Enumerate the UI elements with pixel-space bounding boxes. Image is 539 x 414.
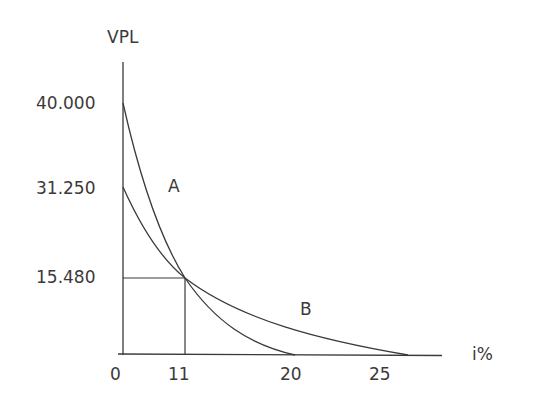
x-tick-11: 11	[168, 366, 190, 383]
curve-a-label: A	[168, 178, 180, 195]
curve-a	[123, 103, 295, 355]
y-tick-15480: 15.480	[36, 269, 95, 286]
curve-b	[123, 187, 408, 355]
x-axis-label: i%	[472, 346, 493, 363]
y-axis-label: VPL	[107, 29, 138, 46]
y-tick-40000: 40.000	[36, 95, 95, 112]
y-tick-31250: 31.250	[36, 180, 95, 197]
x-axis	[118, 354, 442, 356]
curve-b-label: B	[300, 301, 312, 318]
x-tick-0: 0	[110, 366, 121, 383]
x-tick-25: 25	[369, 366, 391, 383]
chart-plot-area	[0, 0, 539, 414]
npv-chart: VPL 40.000 31.250 15.480 0 11 20 25 i% A…	[0, 0, 539, 414]
x-tick-20: 20	[280, 366, 302, 383]
